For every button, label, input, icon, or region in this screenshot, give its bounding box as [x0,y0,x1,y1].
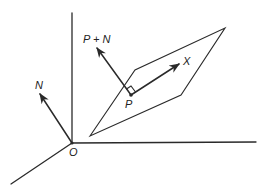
diagonal-axis [11,143,72,184]
p-plus-n-label: P + N [83,34,110,45]
horizontal-axis [72,142,256,143]
normal-label: N [35,80,43,91]
normal-vector-arrow [40,94,72,143]
diagram-svg [0,0,265,196]
x-label: X [183,56,190,67]
point-p-label: P [125,99,132,110]
origin-label: O [69,147,78,158]
origin-dot [70,141,73,144]
point-p-dot [129,93,133,97]
p-plus-n-vector-arrow [97,48,131,95]
diagram-canvas: O N P P + N X [0,0,265,196]
